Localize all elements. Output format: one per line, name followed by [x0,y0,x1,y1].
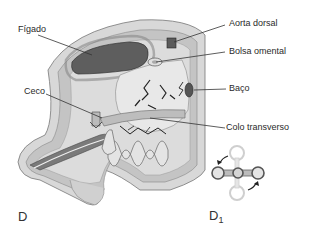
anatomical-illustration [0,0,310,235]
label-aorta-dorsal: Aorta dorsal [229,19,278,28]
label-bolsa-omental: Bolsa omental [229,47,286,56]
embryo-gut-rotation-figure: Fígado Ceco Aorta dorsal Bolsa omental B… [0,0,310,235]
label-ceco: Ceco [24,87,45,96]
panel-label-d1-letter: D [209,208,218,223]
label-colo-transverso: Colo transverso [226,123,289,132]
panel-label-d1-subscript: 1 [218,215,223,225]
label-baco: Baço [229,84,250,93]
label-figado: Fígado [18,25,46,34]
rotation-inset [212,146,264,200]
spleen [185,83,193,97]
panel-label-d1: D1 [209,209,223,222]
aorta [167,38,176,48]
panel-label-d: D [18,210,27,223]
